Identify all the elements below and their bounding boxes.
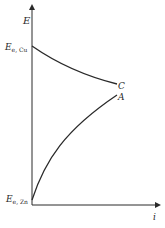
curve-a-label: A (117, 92, 125, 102)
upper-equilibrium-label: Ee, Cu (4, 42, 28, 53)
x-axis-label: i (153, 212, 156, 222)
lower-equilibrium-label: Ee, Zn (5, 194, 28, 205)
curve-a (32, 95, 117, 200)
curve-c-label: C (118, 81, 125, 91)
curve-c (32, 46, 117, 84)
y-axis-label: E (22, 15, 31, 26)
polarization-diagram: E Ee, Cu Ee, Zn C A i (0, 0, 165, 228)
